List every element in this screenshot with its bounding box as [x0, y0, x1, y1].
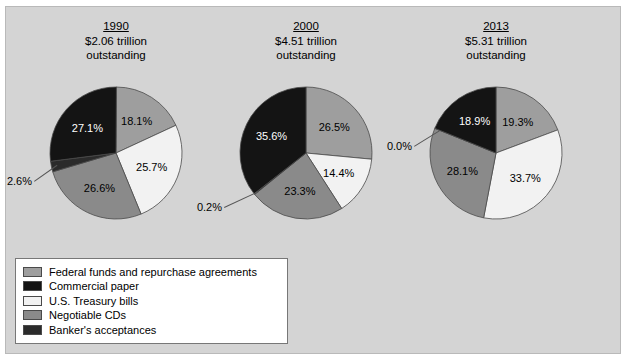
pie-svg-1990	[48, 85, 184, 221]
pie-svg-2000	[238, 85, 374, 221]
pie-body-2013: 19.3%33.7%28.1%0.0%18.9%	[428, 85, 564, 221]
pie-chart-2013: 2013$5.31 trillionoutstanding19.3%33.7%2…	[396, 7, 596, 257]
pie-title-2000: 2000$4.51 trillionoutstanding	[206, 7, 406, 62]
legend-label-bankers-acceptances: Banker's acceptances	[49, 324, 156, 336]
legend-item-fed-funds-repo: Federal funds and repurchase agreements	[23, 265, 279, 280]
pie-chart-1990: 1990$2.06 trillionoutstanding18.1%25.7%2…	[16, 7, 216, 257]
legend-swatch-commercial-paper	[23, 281, 42, 291]
pie-year-label: 1990	[103, 19, 129, 33]
pie-year-label: 2013	[483, 19, 509, 33]
legend-item-treasury-bills: U.S. Treasury bills	[23, 294, 279, 309]
pie-amount-label: $5.31 trillion	[396, 34, 596, 48]
legend-swatch-fed-funds-repo	[23, 267, 42, 277]
pie-body-1990: 18.1%25.7%26.6%2.6%27.1%	[48, 85, 184, 221]
slice-callout-label: 0.0%	[387, 140, 412, 152]
pie-body-2000: 26.5%14.4%23.3%0.2%35.6%	[238, 85, 374, 221]
pie-amount-label: $2.06 trillion	[16, 34, 216, 48]
slice-callout-label: 2.6%	[7, 175, 32, 187]
pie-slice	[50, 87, 116, 161]
chart-legend: Federal funds and repurchase agreementsC…	[15, 258, 288, 345]
pie-title-1990: 1990$2.06 trillionoutstanding	[16, 7, 216, 62]
legend-label-negotiable-cds: Negotiable CDs	[49, 309, 126, 321]
pie-amount-label: $4.51 trillion	[206, 34, 406, 48]
slice-callout-label: 0.2%	[197, 201, 222, 213]
pie-outstanding-label: outstanding	[396, 48, 596, 62]
pie-chart-2000: 2000$4.51 trillionoutstanding26.5%14.4%2…	[206, 7, 406, 257]
pie-outstanding-label: outstanding	[206, 48, 406, 62]
pie-svg-2013	[428, 85, 564, 221]
legend-item-bankers-acceptances: Banker's acceptances	[23, 323, 279, 338]
pie-title-2013: 2013$5.31 trillionoutstanding	[396, 7, 596, 62]
legend-swatch-negotiable-cds	[23, 310, 42, 320]
chart-figure: 1990$2.06 trillionoutstanding18.1%25.7%2…	[5, 6, 621, 354]
pie-outstanding-label: outstanding	[16, 48, 216, 62]
legend-item-negotiable-cds: Negotiable CDs	[23, 308, 279, 323]
pie-slice	[306, 87, 372, 159]
legend-swatch-treasury-bills	[23, 296, 42, 306]
pie-year-label: 2000	[293, 19, 319, 33]
legend-swatch-bankers-acceptances	[23, 325, 42, 335]
legend-label-fed-funds-repo: Federal funds and repurchase agreements	[49, 266, 257, 278]
legend-label-commercial-paper: Commercial paper	[49, 280, 139, 292]
legend-label-treasury-bills: U.S. Treasury bills	[49, 295, 138, 307]
legend-item-commercial-paper: Commercial paper	[23, 279, 279, 294]
